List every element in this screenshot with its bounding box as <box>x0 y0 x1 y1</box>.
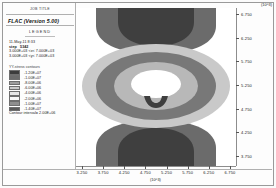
colorbar-swatch <box>9 91 20 96</box>
colorbar-label: -1.00E+07 <box>24 102 41 106</box>
colorbar-swatch <box>9 75 20 80</box>
x-tick-label: 5.250 <box>161 170 172 175</box>
y-tick <box>236 156 239 157</box>
colorbar-swatch <box>9 86 20 91</box>
y-tick-label: 4.250 <box>241 130 252 135</box>
app-title: FLAC (Version 5.00) <box>8 18 59 24</box>
colorbar-title: YY-stress contours <box>9 65 40 69</box>
colorbar-label: -6.00E+06 <box>24 86 41 90</box>
job-title: JOB TITLE <box>6 7 74 11</box>
app-title-box: FLAC (Version 5.00) <box>6 15 74 26</box>
y-tick <box>236 14 239 15</box>
y-tick-label: 5.250 <box>241 83 252 88</box>
colorbar-label: -1.00E+07 <box>24 76 41 80</box>
plot-area <box>76 8 236 166</box>
colorbar-label: -2.00E+06 <box>24 97 41 101</box>
x-tick-label: 4.750 <box>140 170 151 175</box>
y-tick <box>236 109 239 110</box>
colorbar: -1.20E+07-1.00E+07-8.00E+06-6.00E+06-4.0… <box>9 70 71 112</box>
legend-divider <box>25 36 55 37</box>
contour-svg <box>76 8 236 166</box>
legend-step-label: step <box>9 45 17 49</box>
y-tick-label: 6.250 <box>241 35 252 40</box>
y-axis-line <box>236 8 237 166</box>
x-tick-label: 3.250 <box>76 170 87 175</box>
legend-step-value: 5342 <box>20 45 28 49</box>
colorbar-swatch <box>9 70 20 75</box>
legend-meta: 11-May-11 8:33 step 5342 3.000E+03 <x< 7… <box>9 40 75 58</box>
colorbar-label: -8.00E+06 <box>24 81 41 85</box>
y-tick <box>236 85 239 86</box>
colorbar-label: -4.00E+06 <box>24 91 41 95</box>
flac-plot-window: JOB TITLE FLAC (Version 5.00) LEGEND 11-… <box>0 0 276 188</box>
colorbar-swatch <box>9 96 20 101</box>
x-axis-multiplier: (10^3) <box>150 177 161 182</box>
y-tick <box>236 38 239 39</box>
footer-divider <box>3 169 272 170</box>
job-title-box: JOB TITLE <box>6 6 74 15</box>
legend-panel: JOB TITLE FLAC (Version 5.00) LEGEND 11-… <box>3 3 75 185</box>
contour-interval-label: Contour interval= 2.00E+06 <box>9 111 55 115</box>
x-tick-label: 6.250 <box>203 170 214 175</box>
y-tick-label: 5.750 <box>241 59 252 64</box>
x-tick-label: 5.750 <box>182 170 193 175</box>
y-tick-label: 3.750 <box>241 154 252 159</box>
contour-plot <box>76 8 236 166</box>
y-tick-label: 4.750 <box>241 106 252 111</box>
y-axis-multiplier: (10^3) <box>261 2 272 7</box>
x-axis-line <box>76 166 236 167</box>
y-tick <box>236 132 239 133</box>
y-tick <box>236 61 239 62</box>
colorbar-label: -1.20E+07 <box>24 71 41 75</box>
contour-core <box>131 70 181 98</box>
x-tick-label: 4.250 <box>119 170 130 175</box>
x-tick-label: 6.750 <box>224 170 235 175</box>
colorbar-swatch <box>9 81 20 86</box>
legend-yrange: 3.000E+03 <y< 7.000E+03 <box>9 54 75 59</box>
colorbar-swatch <box>9 101 20 106</box>
legend-heading: LEGEND <box>6 30 74 34</box>
y-axis: (10^3) 6.7506.2505.7505.2504.7504.2503.7… <box>236 8 274 166</box>
y-tick-label: 6.750 <box>241 12 252 17</box>
x-tick-label: 3.750 <box>98 170 109 175</box>
